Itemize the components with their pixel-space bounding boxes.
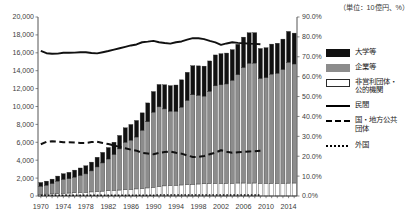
bar-segment-companies bbox=[287, 62, 291, 183]
y-axis-tick-label: 10,000 bbox=[13, 103, 35, 110]
legend-label-universities: 大学等 bbox=[355, 48, 376, 56]
bar-segment-nonprofit_public bbox=[241, 183, 245, 196]
bar-segment-universities bbox=[219, 54, 223, 85]
bar-segment-companies bbox=[253, 63, 257, 183]
bar-segment-companies bbox=[208, 91, 212, 183]
bar-segment-companies bbox=[67, 179, 71, 193]
bar-segment-universities bbox=[129, 124, 133, 140]
y-axis-tick-label: 2,000 bbox=[16, 175, 34, 182]
bar-segment-universities bbox=[275, 43, 279, 73]
bar-segment-nonprofit_public bbox=[208, 184, 212, 196]
bar-segment-universities bbox=[191, 66, 195, 95]
x-axis-tick-label: 1982 bbox=[100, 202, 116, 211]
bar-segment-companies bbox=[163, 109, 167, 186]
bar-segment-nonprofit_public bbox=[275, 183, 279, 196]
bar-segment-universities bbox=[61, 174, 65, 180]
bar-segment-universities bbox=[168, 86, 172, 112]
bar-segment-companies bbox=[89, 171, 93, 192]
bar-segment-universities bbox=[39, 182, 43, 186]
bar-segment-universities bbox=[258, 49, 262, 79]
chart-container: （単位：10億円、%） 20,00018,00016,00014,00012,0… bbox=[0, 0, 412, 220]
bar-segment-companies bbox=[135, 137, 139, 189]
bar-segment-companies bbox=[225, 84, 229, 183]
bar-segment-nonprofit_public bbox=[247, 183, 251, 196]
y2-axis-tick-label: 40.0% bbox=[302, 113, 322, 120]
bar-segment-universities bbox=[163, 85, 167, 109]
bar-segment-universities bbox=[253, 33, 257, 63]
y-axis-tick-label: 6,000 bbox=[16, 139, 34, 146]
bar-segment-companies bbox=[78, 176, 82, 193]
bar-segment-companies bbox=[230, 80, 234, 183]
y2-axis-tick-label: 30.0% bbox=[302, 133, 322, 140]
x-axis-tick-label: 1974 bbox=[55, 202, 71, 211]
line-series-private bbox=[41, 38, 261, 54]
bar-segment-universities bbox=[287, 31, 291, 62]
y-axis-tick-label: 18,000 bbox=[13, 31, 35, 38]
y-axis-tick-label: 20,000 bbox=[13, 13, 35, 20]
bar-segment-companies bbox=[61, 179, 65, 193]
bar-segment-nonprofit_public bbox=[287, 183, 291, 196]
y2-axis-tick-label: 60.0% bbox=[302, 73, 322, 80]
y-axis-tick-label: 12,000 bbox=[13, 85, 35, 92]
legend-item-government-local[interactable]: 国・地方公共 団体 bbox=[326, 116, 412, 132]
bar-segment-universities bbox=[157, 84, 161, 106]
x-axis-tick-label: 1998 bbox=[190, 202, 206, 211]
bar-segment-universities bbox=[95, 157, 99, 167]
y2-axis-tick-label: 10.0% bbox=[302, 173, 322, 180]
bar-segment-companies bbox=[112, 155, 116, 191]
bar-segment-universities bbox=[236, 44, 240, 74]
legend-label-private: 民間 bbox=[355, 101, 369, 109]
bar-segment-universities bbox=[146, 103, 150, 122]
bar-segment-companies bbox=[202, 96, 206, 184]
bar-segment-universities bbox=[44, 181, 48, 185]
legend-item-private[interactable]: 民間 bbox=[326, 101, 412, 110]
legend-item-nonprofit-public[interactable]: 非営利団体・ 公的機関 bbox=[326, 78, 412, 94]
bar-segment-nonprofit_public bbox=[230, 183, 234, 196]
bar-segment-universities bbox=[174, 85, 178, 111]
legend-swatch-nonprofit-public-icon bbox=[326, 79, 350, 87]
y-axis-tick-label: 14,000 bbox=[13, 67, 35, 74]
bar-segment-companies bbox=[129, 140, 133, 189]
y-axis-tick-label: 8,000 bbox=[16, 121, 34, 128]
legend-swatch-universities-icon bbox=[326, 49, 350, 57]
x-axis-tick-label: 2006 bbox=[236, 202, 252, 211]
bar-segment-companies bbox=[219, 85, 223, 183]
bar-segment-companies bbox=[101, 163, 105, 191]
bar-segment-companies bbox=[168, 111, 172, 185]
bar-segment-universities bbox=[140, 113, 144, 130]
bar-segment-universities bbox=[180, 80, 184, 107]
y2-axis-tick-label: 20.0% bbox=[302, 153, 322, 160]
bar-segment-companies bbox=[151, 112, 155, 187]
legend-swatch-government-dashed-icon bbox=[326, 117, 350, 125]
bar-segment-companies bbox=[191, 95, 195, 185]
x-axis-tick-label: 1978 bbox=[78, 202, 94, 211]
x-axis-tick-label: 1986 bbox=[123, 202, 139, 211]
y2-axis-tick-label: 90.0% bbox=[302, 13, 322, 20]
y2-axis-tick-label: 50.0% bbox=[302, 93, 322, 100]
legend-label-government-local: 国・地方公共 団体 bbox=[355, 116, 397, 132]
y2-axis-tick-label: 80.0% bbox=[302, 33, 322, 40]
x-axis-tick-label: 2002 bbox=[213, 202, 229, 211]
bar-segment-universities bbox=[89, 162, 93, 171]
bar-segment-universities bbox=[292, 33, 296, 64]
bar-segment-universities bbox=[241, 37, 245, 67]
bar-segment-nonprofit_public bbox=[264, 183, 268, 196]
bar-segment-universities bbox=[202, 66, 206, 96]
bar-segment-universities bbox=[112, 142, 116, 154]
bar-segment-universities bbox=[196, 66, 200, 96]
bar-segment-nonprofit_public bbox=[202, 184, 206, 196]
legend-item-foreign[interactable]: 外国 bbox=[326, 141, 412, 150]
bar-segment-universities bbox=[50, 179, 54, 183]
bar-segment-universities bbox=[270, 44, 274, 74]
bar-segment-nonprofit_public bbox=[253, 183, 257, 196]
legend-item-companies[interactable]: 企業等 bbox=[326, 63, 412, 72]
x-axis-tick-label: 1994 bbox=[168, 202, 184, 211]
legend-item-universities[interactable]: 大学等 bbox=[326, 48, 412, 57]
bar-segment-universities bbox=[247, 33, 251, 63]
bar-segment-companies bbox=[73, 177, 77, 193]
x-axis-tick-label: 1970 bbox=[33, 202, 49, 211]
bar-segment-universities bbox=[281, 39, 285, 69]
bar-segment-nonprofit_public bbox=[191, 184, 195, 196]
x-axis-tick-label: 2014 bbox=[281, 202, 297, 211]
bar-segment-universities bbox=[213, 55, 217, 86]
